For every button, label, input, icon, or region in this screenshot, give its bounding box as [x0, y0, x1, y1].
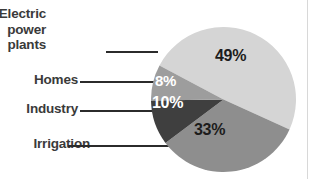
slice-value-irrigation: 33%	[194, 121, 225, 139]
slice-value-industry: 10%	[152, 94, 183, 112]
slice-value-homes: 8%	[155, 72, 176, 89]
label-column: Electric power plants Homes Industry Irr…	[0, 0, 152, 179]
slice-label-industry: Industry	[26, 101, 78, 117]
slice-label-irrigation: Irrigation	[33, 136, 90, 152]
pie-chart-figure: Electric power plants Homes Industry Irr…	[0, 0, 313, 179]
leader-line-industry	[80, 110, 156, 112]
leader-line-homes	[80, 81, 157, 83]
slice-value-electric-power-plants: 49%	[215, 47, 246, 65]
slice-label-electric-power-plants: Electric power plants	[0, 6, 46, 53]
right-edge-rule	[307, 0, 308, 179]
slice-label-homes: Homes	[34, 72, 78, 88]
